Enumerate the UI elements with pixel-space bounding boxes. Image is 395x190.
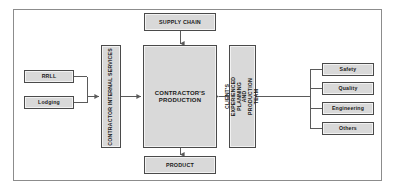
node-product[interactable]: PRODUCT	[144, 156, 216, 174]
node-input-rrll-label: RRLL	[40, 74, 59, 80]
node-input-safety-label: Safety	[338, 67, 359, 73]
node-input-others[interactable]: Others	[322, 122, 374, 135]
node-input-lodging[interactable]: Lodging	[24, 96, 74, 109]
node-contractors-production[interactable]: CONTRACTOR'S PRODUCTION	[143, 45, 217, 148]
node-input-safety[interactable]: Safety	[322, 63, 374, 76]
node-clients-planning-production-team[interactable]: CLIENT'S EXPERIENCED PLANNING AND PRODUC…	[229, 45, 256, 148]
node-input-quality-label: Quality	[337, 86, 360, 92]
node-input-engineering[interactable]: Engineering	[322, 102, 374, 115]
diagram-canvas: SUPPLY CHAIN CONTRACTOR INTERNAL SERVICE…	[0, 0, 395, 190]
node-supply-chain-label: SUPPLY CHAIN	[157, 19, 203, 25]
node-input-rrll[interactable]: RRLL	[24, 70, 74, 83]
node-contractor-internal-services[interactable]: CONTRACTOR INTERNAL SERVICES	[101, 45, 121, 148]
node-supply-chain[interactable]: SUPPLY CHAIN	[144, 13, 216, 31]
node-input-others-label: Others	[337, 126, 359, 132]
node-product-label: PRODUCT	[164, 162, 196, 168]
node-clients-planning-production-team-label: CLIENT'S EXPERIENCED PLANNING AND PRODUC…	[225, 75, 260, 118]
node-input-lodging-label: Lodging	[36, 100, 62, 106]
node-input-quality[interactable]: Quality	[322, 82, 374, 95]
node-contractor-internal-services-label: CONTRACTOR INTERNAL SERVICES	[108, 46, 114, 148]
node-input-engineering-label: Engineering	[330, 106, 366, 112]
node-contractors-production-label: CONTRACTOR'S PRODUCTION	[144, 90, 216, 103]
